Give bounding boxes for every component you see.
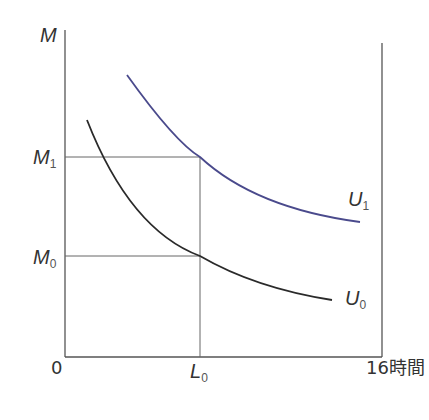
- tick-label-l0: L0: [190, 360, 208, 385]
- origin-label: 0: [51, 357, 62, 378]
- curve-u1: [127, 75, 360, 222]
- tick-label-m1: M1: [33, 146, 57, 171]
- indifference-curve-diagram: M M1 M0 0 L0 16時間 U1 U0: [0, 0, 429, 420]
- x-axis-end-label: 16時間: [366, 357, 425, 378]
- curve-label-u0: U0: [345, 287, 366, 312]
- y-axis-label: M: [40, 24, 57, 46]
- curve-u0: [87, 120, 332, 300]
- tick-label-m0: M0: [33, 246, 57, 271]
- curve-label-u1: U1: [348, 188, 369, 213]
